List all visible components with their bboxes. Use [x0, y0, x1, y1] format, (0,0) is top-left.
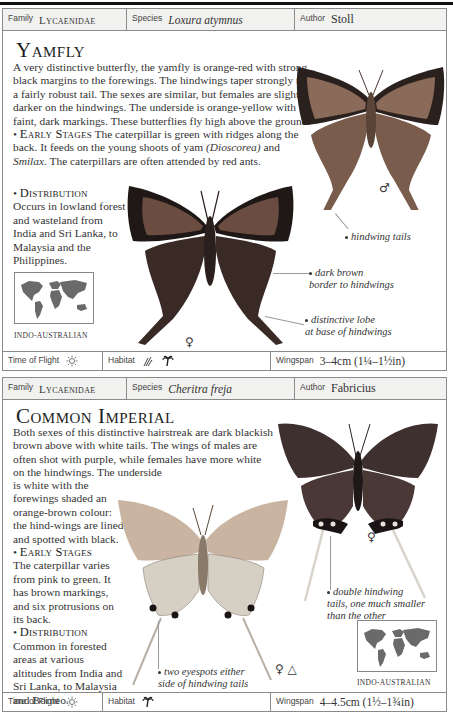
- species-label: Species: [132, 13, 162, 23]
- species-value: Cheritra freja: [168, 383, 232, 395]
- entry-footer: Time of Flight Habitat Wingspan 4–4.5cm …: [3, 692, 446, 711]
- author-label: Author: [300, 382, 325, 392]
- wingspan-label: Wingspan: [276, 355, 314, 365]
- butterfly-underside-image: [113, 490, 293, 690]
- species-cell: Species Cheritra freja: [127, 378, 295, 399]
- butterfly-female-image: [123, 181, 298, 351]
- annotation-double-tails: double hindwing tails, one much smaller …: [327, 586, 425, 622]
- entry-header: Family Lycaenidae Species Loxura atymnus…: [3, 9, 446, 31]
- female-symbol: ♀: [367, 530, 376, 544]
- description-text-b: is white with the forewings shaded an or…: [13, 479, 125, 546]
- grass-icon: [141, 354, 155, 368]
- wingspan-value: 3–4cm (1¼–1½in): [320, 355, 405, 367]
- butterfly-upperside-image: [273, 406, 443, 606]
- leader-line: [330, 536, 331, 590]
- leader-line: [335, 213, 349, 229]
- bullet: •: [13, 128, 20, 140]
- habitat-cell: Habitat: [103, 352, 271, 370]
- description-continued: is white with the forewings shaded an or…: [13, 479, 125, 707]
- habitat-label: Habitat: [108, 696, 135, 706]
- early-stages-italic-1: (Dioscorea): [206, 141, 261, 153]
- time-of-flight-label: Time of Flight: [8, 355, 59, 365]
- early-stages-text: The caterpillar varies from pink to gree…: [13, 559, 125, 626]
- family-label: Family: [8, 382, 33, 392]
- wingspan-value: 4–4.5cm (1½–1¾in): [320, 696, 414, 708]
- author-value: Stoll: [331, 12, 354, 27]
- habitat-cell: Habitat: [103, 693, 271, 711]
- description-text: A very distinctive butterfly, the yamfly…: [13, 61, 311, 128]
- map-region-label: Indo-Australian: [14, 331, 88, 340]
- female-symbol: ♀: [185, 335, 194, 349]
- species-cell: Species Loxura atymnus: [127, 9, 295, 30]
- world-map-icon: [15, 273, 93, 323]
- time-of-flight-cell: Time of Flight: [3, 693, 103, 711]
- family-cell: Family Lycaenidae: [3, 9, 127, 30]
- annotation-eyespots: two eyespots either side of hindwing tai…: [158, 666, 248, 690]
- annotation-hindwing-tails: hindwing tails: [345, 231, 411, 243]
- species-title: Yamfly: [16, 38, 85, 63]
- leader-line: [273, 273, 309, 274]
- annotation-dark-brown-border: dark brown border to hindwings: [309, 267, 394, 291]
- habitat-label: Habitat: [108, 355, 135, 365]
- early-stages-heading: Early Stages: [20, 127, 92, 141]
- bullet: •: [13, 187, 20, 199]
- world-map-icon: [358, 621, 436, 671]
- time-of-flight-label: Time of Flight: [8, 696, 59, 706]
- sun-icon: [65, 354, 79, 368]
- author-cell: Author Stoll: [295, 9, 446, 30]
- author-value: Fabricius: [331, 381, 376, 396]
- early-stages-text-mid: and: [261, 141, 280, 153]
- annotation-distinctive-lobe: distinctive lobe at base of hindwings: [305, 314, 392, 338]
- distribution-heading: Distribution: [20, 186, 88, 200]
- family-value: Lycaenidae: [39, 383, 95, 395]
- early-stages-text-post: . The caterpillars are often attended by…: [44, 155, 261, 167]
- species-entry-common-imperial: Family Lycaenidae Species Cheritra freja…: [2, 377, 447, 712]
- distribution-block: • Distribution Occurs in lowland forest …: [13, 187, 128, 267]
- wingspan-cell: Wingspan 4–4.5cm (1½–1¾in): [271, 693, 446, 711]
- leader-line: [158, 621, 159, 669]
- top-rule: [0, 2, 453, 5]
- map-region-label: Indo-Australian: [357, 678, 431, 687]
- male-symbol: ♂: [379, 181, 390, 195]
- butterfly-male-image: [293, 55, 448, 210]
- description-block: A very distinctive butterfly, the yamfly…: [13, 61, 311, 168]
- author-cell: Author Fabricius: [295, 378, 446, 399]
- early-stages-paragraph: • Early Stages The caterpillar is green …: [13, 128, 311, 168]
- description-text: Both sexes of this distinctive hairstrea…: [13, 426, 275, 480]
- description-block: Both sexes of this distinctive hairstrea…: [13, 426, 275, 480]
- family-label: Family: [8, 13, 33, 23]
- palm-tree-icon: [141, 695, 155, 709]
- early-stages-heading: Early Stages: [20, 545, 92, 559]
- wingspan-cell: Wingspan 3–4cm (1¼–1½in): [271, 352, 446, 370]
- species-entry-yamfly: Family Lycaenidae Species Loxura atymnus…: [2, 8, 447, 371]
- sun-icon: [65, 695, 79, 709]
- distribution-heading: Distribution: [20, 625, 88, 639]
- family-cell: Family Lycaenidae: [3, 378, 127, 399]
- distribution-text: Occurs in lowland forest and wasteland f…: [13, 200, 128, 267]
- world-map: [14, 272, 94, 324]
- bullet: •: [13, 546, 20, 558]
- bullet: •: [13, 626, 20, 638]
- species-label: Species: [132, 382, 162, 392]
- time-of-flight-cell: Time of Flight: [3, 352, 103, 370]
- wingspan-label: Wingspan: [276, 696, 314, 706]
- world-map: [357, 620, 437, 672]
- entry-footer: Time of Flight Habitat Wingspan 3–4cm (1…: [3, 351, 446, 370]
- palm-tree-icon: [161, 354, 175, 368]
- early-stages-italic-2: Smilax: [13, 155, 44, 167]
- species-value: Loxura atymnus: [168, 14, 242, 26]
- author-label: Author: [300, 13, 325, 23]
- family-value: Lycaenidae: [39, 14, 95, 26]
- entry-header: Family Lycaenidae Species Cheritra freja…: [3, 378, 446, 400]
- female-underside-symbol: ♀ △: [275, 662, 297, 676]
